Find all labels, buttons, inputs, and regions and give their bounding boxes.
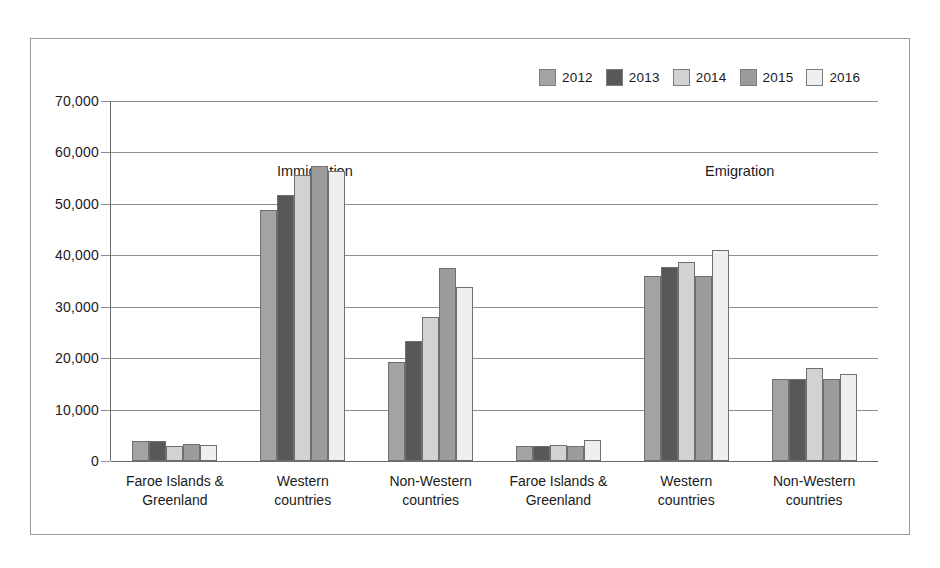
panel-emigration: Faroe Islands & GreenlandWestern countri…: [495, 101, 879, 461]
bar-2015[interactable]: [695, 276, 712, 461]
bar-2013[interactable]: [149, 441, 166, 461]
legend-swatch-2012: [539, 69, 556, 86]
bar-2015[interactable]: [311, 166, 328, 461]
bar-2016[interactable]: [200, 445, 217, 461]
y-tick-mark-20000: [101, 358, 110, 359]
bar-group: Non-Western countries: [367, 101, 495, 461]
y-tick-label-70000: 70,000: [55, 93, 99, 109]
bar-2016[interactable]: [584, 440, 601, 461]
legend-label-2012: 2012: [562, 71, 593, 85]
y-tick-mark-10000: [101, 410, 110, 411]
y-tick-label-40000: 40,000: [55, 247, 99, 263]
gridline-0: [111, 461, 878, 462]
y-tick-label-20000: 20,000: [55, 350, 99, 366]
legend-label-2016: 2016: [829, 71, 860, 85]
bar-2015[interactable]: [183, 444, 200, 461]
bar-2012[interactable]: [260, 210, 277, 461]
bars: [772, 101, 857, 461]
panel-immigration: Faroe Islands & GreenlandWestern countri…: [111, 101, 495, 461]
bar-2012[interactable]: [516, 446, 533, 461]
bar-2014[interactable]: [422, 317, 439, 461]
bar-2015[interactable]: [567, 446, 584, 461]
x-axis-label: Western countries: [238, 472, 368, 510]
bar-2014[interactable]: [678, 262, 695, 461]
bars: [260, 101, 345, 461]
y-tick-label-50000: 50,000: [55, 196, 99, 212]
bar-2012[interactable]: [132, 441, 149, 461]
bars: [132, 101, 217, 461]
bar-group: Western countries: [622, 101, 750, 461]
bars: [388, 101, 473, 461]
y-tick-label-10000: 10,000: [55, 402, 99, 418]
x-axis-label: Non-Western countries: [749, 472, 879, 510]
chart-frame: 20122013201420152016 Immigration Emigrat…: [30, 38, 910, 535]
y-tick-label-60000: 60,000: [55, 144, 99, 160]
bar-2014[interactable]: [294, 175, 311, 461]
legend-label-2014: 2014: [696, 71, 727, 85]
y-tick-label-30000: 30,000: [55, 299, 99, 315]
y-tick-mark-60000: [101, 152, 110, 153]
x-axis-label: Faroe Islands & Greenland: [110, 472, 240, 510]
x-axis-label: Non-Western countries: [366, 472, 496, 510]
legend-item-2016[interactable]: 2016: [806, 69, 860, 86]
legend-label-2015: 2015: [763, 71, 794, 85]
bar-2016[interactable]: [456, 287, 473, 461]
legend-swatch-2016: [806, 69, 823, 86]
bar-2016[interactable]: [712, 250, 729, 461]
legend-label-2013: 2013: [629, 71, 660, 85]
bar-2012[interactable]: [644, 276, 661, 461]
legend-item-2013[interactable]: 2013: [606, 69, 660, 86]
bar-group: Faroe Islands & Greenland: [111, 101, 239, 461]
bar-group: Western countries: [239, 101, 367, 461]
bar-2013[interactable]: [789, 379, 806, 461]
legend-swatch-2013: [606, 69, 623, 86]
legend-item-2014[interactable]: 2014: [673, 69, 727, 86]
bar-2012[interactable]: [388, 362, 405, 461]
bar-2013[interactable]: [661, 267, 678, 461]
bar-2016[interactable]: [840, 374, 857, 461]
bar-group: Faroe Islands & Greenland: [495, 101, 623, 461]
bar-2014[interactable]: [806, 368, 823, 461]
legend-swatch-2014: [673, 69, 690, 86]
chart-legend: 20122013201420152016: [539, 69, 860, 86]
bars: [644, 101, 729, 461]
bar-2013[interactable]: [533, 446, 550, 461]
legend-item-2015[interactable]: 2015: [740, 69, 794, 86]
bar-2016[interactable]: [328, 171, 345, 461]
bars: [516, 101, 601, 461]
bar-2014[interactable]: [550, 445, 567, 461]
x-axis-label: Western countries: [621, 472, 751, 510]
bar-groups: Faroe Islands & GreenlandWestern countri…: [111, 101, 878, 461]
y-tick-mark-0: [101, 461, 110, 462]
x-axis-label: Faroe Islands & Greenland: [493, 472, 623, 510]
legend-item-2012[interactable]: 2012: [539, 69, 593, 86]
bar-2014[interactable]: [166, 446, 183, 461]
bar-2015[interactable]: [823, 379, 840, 461]
bar-2013[interactable]: [277, 195, 294, 461]
y-tick-label-0: 0: [91, 453, 99, 469]
bar-2013[interactable]: [405, 341, 422, 461]
legend-swatch-2015: [740, 69, 757, 86]
bar-2012[interactable]: [772, 379, 789, 461]
bar-group: Non-Western countries: [750, 101, 878, 461]
plot-area: 010,00020,00030,00040,00050,00060,00070,…: [111, 101, 878, 461]
bar-2015[interactable]: [439, 268, 456, 461]
y-tick-mark-40000: [101, 255, 110, 256]
y-tick-mark-70000: [101, 101, 110, 102]
y-tick-mark-50000: [101, 204, 110, 205]
y-tick-mark-30000: [101, 307, 110, 308]
